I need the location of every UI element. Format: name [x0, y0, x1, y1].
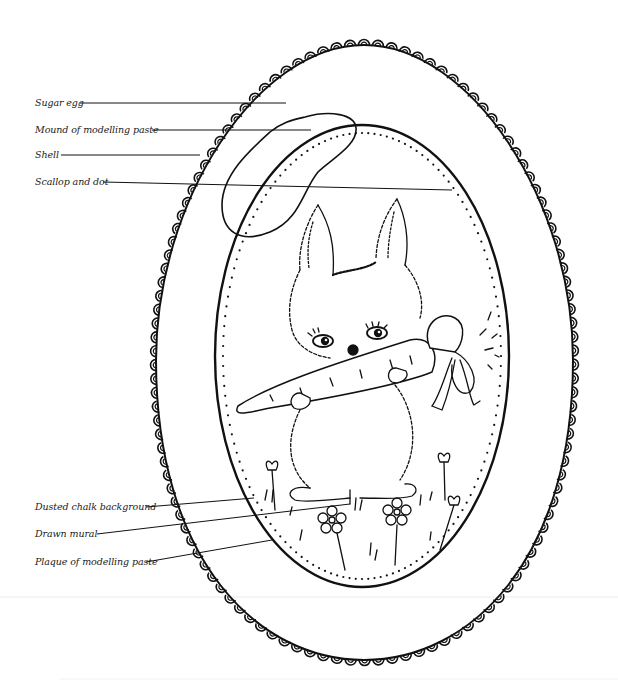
leader-line-plaque [146, 540, 272, 562]
sugar-egg-illustration [0, 0, 618, 695]
leader-line-dusted [146, 498, 254, 507]
